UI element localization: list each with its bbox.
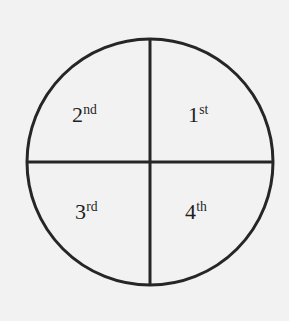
quadrant-circle-diagram: 1st 2nd 3rd 4th [0, 0, 289, 321]
quadrant-number-second: 2 [72, 102, 83, 127]
quadrant-suffix-fourth: th [196, 199, 207, 214]
quadrant-suffix-first: st [199, 102, 208, 117]
quadrant-number-third: 3 [75, 199, 86, 224]
quadrant-number-fourth: 4 [185, 199, 196, 224]
quadrant-label-third: 3rd [75, 201, 98, 223]
circle-graphic [0, 0, 289, 321]
quadrant-label-first: 1st [188, 104, 208, 126]
quadrant-number-first: 1 [188, 102, 199, 127]
quadrant-label-second: 2nd [72, 104, 97, 126]
quadrant-suffix-second: nd [83, 102, 97, 117]
quadrant-suffix-third: rd [86, 199, 97, 214]
quadrant-label-fourth: 4th [185, 201, 207, 223]
